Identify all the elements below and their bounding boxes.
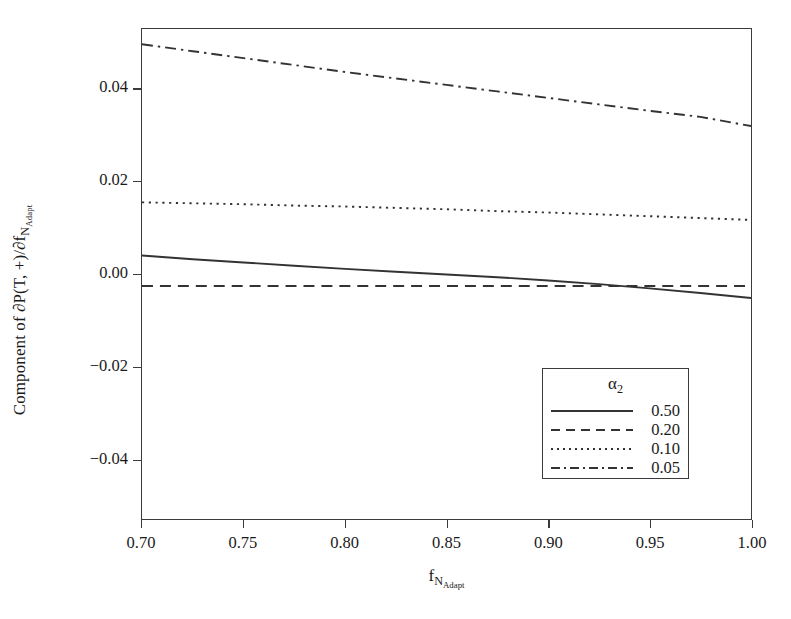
x-tick-mark: [141, 520, 142, 528]
legend-title: α2: [543, 374, 688, 397]
legend-box: α2 0.500.200.100.05: [542, 368, 689, 479]
x-tick-label: 0.75: [208, 533, 278, 553]
x-axis-label-subscript: NAdapt: [434, 574, 464, 588]
x-tick-mark: [345, 520, 346, 528]
x-tick-mark: [752, 520, 753, 528]
x-tick-label: 0.95: [615, 533, 685, 553]
x-tick-label: 0.90: [513, 533, 583, 553]
legend-item: 0.20: [550, 421, 682, 439]
legend-line-sample: [550, 405, 634, 417]
legend-line-sample: [550, 424, 634, 436]
legend-item: 0.10: [550, 440, 682, 458]
x-tick-mark: [548, 520, 549, 528]
y-axis-label: Component of ∂P(T, +)/∂fNAdapt: [0, 0, 44, 619]
x-tick-mark: [243, 520, 244, 528]
series-line-0-05: [142, 44, 751, 126]
legend-item: 0.50: [550, 402, 682, 420]
y-axis-label-subscript: NAdapt: [18, 204, 32, 235]
legend-item-label: 0.20: [640, 422, 682, 439]
series-line-0-50: [142, 256, 751, 299]
y-tick-label: 0.02: [40, 170, 128, 190]
y-tick-label: −0.02: [40, 356, 128, 376]
x-tick-label: 0.85: [412, 533, 482, 553]
legend-item-label: 0.10: [640, 441, 682, 458]
y-axis-label-text: Component of ∂P(T, +)/∂f: [10, 235, 29, 415]
y-tick-mark: [133, 460, 141, 461]
y-tick-mark: [133, 367, 141, 368]
series-line-0-10: [142, 202, 751, 220]
legend-item: 0.05: [550, 459, 682, 477]
y-tick-mark: [133, 88, 141, 89]
y-tick-label: 0.04: [40, 77, 128, 97]
x-tick-label: 0.70: [106, 533, 176, 553]
legend-item-label: 0.05: [640, 460, 682, 477]
y-tick-mark: [133, 181, 141, 182]
y-tick-label: −0.04: [40, 449, 128, 469]
x-tick-mark: [650, 520, 651, 528]
legend-item-label: 0.50: [640, 403, 682, 420]
x-tick-mark: [447, 520, 448, 528]
x-axis-label: fNAdapt: [141, 566, 752, 591]
legend-line-sample: [550, 443, 634, 455]
y-tick-label: 0.00: [40, 263, 128, 283]
x-tick-label: 1.00: [717, 533, 787, 553]
x-tick-label: 0.80: [310, 533, 380, 553]
legend-line-sample: [550, 462, 634, 474]
y-tick-mark: [133, 274, 141, 275]
chart-figure: Component of ∂P(T, +)/∂fNAdapt fNAdapt 0…: [0, 0, 791, 619]
